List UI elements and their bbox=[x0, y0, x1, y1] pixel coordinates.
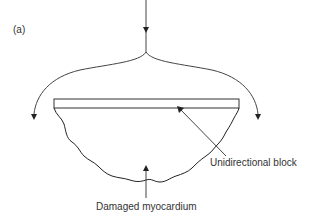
incoming-impulse-arrow bbox=[143, 0, 149, 52]
down-arrowhead-icon bbox=[143, 27, 149, 33]
panel-label: (a) bbox=[13, 25, 25, 35]
up-arrowhead-icon bbox=[143, 165, 149, 171]
diagram-canvas: (a) Unidirectional block Damaged myocard… bbox=[0, 0, 313, 224]
block-pointer-arrow bbox=[180, 109, 226, 156]
damaged-myocardium-label: Damaged myocardium bbox=[96, 202, 197, 212]
left-arrowhead-icon bbox=[31, 114, 37, 120]
right-arrowhead-icon bbox=[255, 114, 261, 120]
conduction-pathway-rect bbox=[54, 99, 239, 108]
reentry-diagram bbox=[0, 0, 313, 224]
unidirectional-block-label: Unidirectional block bbox=[210, 158, 297, 168]
